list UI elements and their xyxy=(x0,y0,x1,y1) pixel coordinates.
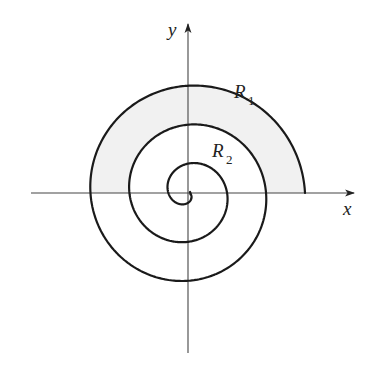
spiral-diagram: y x R 1 R 2 xyxy=(0,0,380,365)
region-r1-shading xyxy=(90,86,305,193)
y-axis-label: y xyxy=(166,19,177,40)
region-r1-letter: R xyxy=(233,81,246,102)
x-axis-label: x xyxy=(342,198,352,219)
region-r2-label: R 2 xyxy=(211,140,233,167)
region-r2-subscript: 2 xyxy=(226,152,233,167)
region-r2-letter: R xyxy=(211,140,224,161)
region-r1-subscript: 1 xyxy=(248,93,255,108)
